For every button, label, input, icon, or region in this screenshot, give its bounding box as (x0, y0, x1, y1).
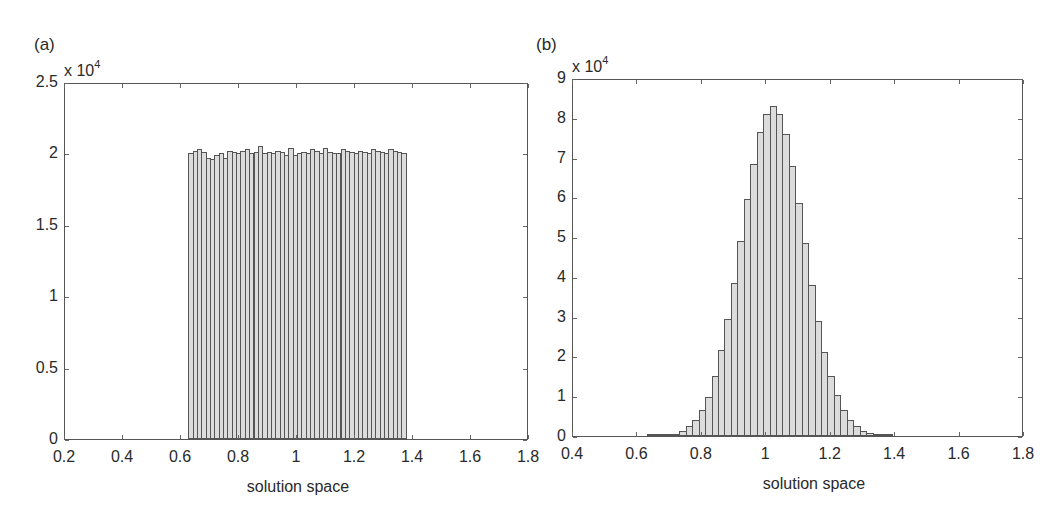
x-tick-label: 1.6 (939, 445, 979, 463)
x-tick-mark (412, 84, 413, 88)
y-tick-label: 2 (18, 144, 58, 162)
x-tick-mark (296, 435, 297, 439)
y-tick-mark (573, 238, 577, 239)
y-tick-label: 0.5 (18, 359, 58, 377)
y-tick-mark (523, 226, 527, 227)
x-tick-mark (180, 84, 181, 88)
x-tick-label: 0.6 (160, 448, 200, 466)
y-tick-label: 1.5 (18, 216, 58, 234)
x-tick-mark (701, 432, 702, 436)
histogram-bar (885, 434, 892, 436)
x-tick-mark (830, 80, 831, 84)
x-tick-mark (636, 432, 637, 436)
y-tick-mark (1018, 357, 1022, 358)
x-tick-mark (765, 80, 766, 84)
histogram-b-axes (572, 79, 1023, 437)
x-tick-mark (64, 435, 65, 439)
x-tick-label: 1 (276, 448, 316, 466)
histogram-bar (401, 153, 406, 439)
histogram-a-axes (64, 83, 528, 440)
y-tick-mark (65, 440, 69, 441)
x-tick-label: 1.6 (450, 448, 490, 466)
x-tick-mark (296, 84, 297, 88)
x-tick-mark (470, 435, 471, 439)
x-tick-mark (354, 435, 355, 439)
y-tick-label: 7 (526, 149, 566, 167)
x-tick-label: 1.2 (334, 448, 374, 466)
exp-base: x 10 (572, 58, 602, 75)
x-tick-mark (572, 432, 573, 436)
y-tick-mark (523, 297, 527, 298)
y-tick-label: 6 (526, 188, 566, 206)
y-tick-mark (1018, 397, 1022, 398)
y-tick-mark (573, 278, 577, 279)
y-tick-mark (573, 357, 577, 358)
y-tick-mark (573, 397, 577, 398)
y-tick-label: 0 (18, 430, 58, 448)
x-tick-mark (1023, 80, 1024, 84)
x-tick-mark (830, 432, 831, 436)
panel-b-y-multiplier: x 104 (572, 56, 608, 76)
y-tick-label: 8 (526, 109, 566, 127)
x-tick-label: 1 (745, 445, 785, 463)
y-tick-mark (1018, 198, 1022, 199)
x-tick-label: 1.8 (1003, 445, 1043, 463)
x-tick-label: 1.8 (508, 448, 548, 466)
x-tick-mark (412, 435, 413, 439)
y-tick-mark (1018, 318, 1022, 319)
x-tick-label: 1.4 (392, 448, 432, 466)
x-tick-label: 0.4 (102, 448, 142, 466)
exp-base: x 10 (64, 62, 94, 79)
x-tick-mark (1023, 432, 1024, 436)
y-tick-label: 2 (526, 347, 566, 365)
x-tick-mark (636, 80, 637, 84)
y-tick-mark (573, 318, 577, 319)
y-tick-label: 5 (526, 228, 566, 246)
y-tick-mark (1018, 278, 1022, 279)
x-tick-label: 1.2 (810, 445, 850, 463)
x-tick-mark (354, 84, 355, 88)
panel-b-xlabel: solution space (714, 475, 914, 493)
y-tick-mark (65, 154, 69, 155)
x-tick-mark (959, 80, 960, 84)
x-tick-mark (959, 432, 960, 436)
y-tick-mark (65, 83, 69, 84)
exp-power: 4 (602, 54, 608, 66)
panel-a-label: (a) (34, 35, 55, 55)
y-tick-mark (573, 79, 577, 80)
y-tick-label: 4 (526, 268, 566, 286)
y-tick-mark (573, 198, 577, 199)
x-tick-mark (238, 84, 239, 88)
x-tick-label: 0.8 (681, 445, 721, 463)
x-tick-mark (64, 84, 65, 88)
x-tick-label: 0.6 (616, 445, 656, 463)
y-tick-mark (1018, 119, 1022, 120)
x-tick-mark (180, 435, 181, 439)
y-tick-label: 2.5 (18, 73, 58, 91)
x-tick-mark (572, 80, 573, 84)
y-tick-mark (1018, 238, 1022, 239)
x-tick-mark (122, 435, 123, 439)
x-tick-mark (765, 432, 766, 436)
y-tick-label: 1 (18, 287, 58, 305)
y-tick-label: 0 (526, 427, 566, 445)
y-tick-mark (523, 369, 527, 370)
x-tick-mark (470, 84, 471, 88)
panel-a-y-multiplier: x 104 (64, 60, 100, 80)
y-tick-mark (65, 369, 69, 370)
y-tick-label: 9 (526, 69, 566, 87)
exp-power: 4 (94, 58, 100, 70)
x-tick-label: 1.4 (874, 445, 914, 463)
y-tick-mark (1018, 79, 1022, 80)
y-tick-label: 1 (526, 387, 566, 405)
y-tick-mark (573, 159, 577, 160)
x-tick-mark (701, 80, 702, 84)
x-tick-label: 0.4 (552, 445, 592, 463)
panel-b-label: (b) (536, 35, 557, 55)
y-tick-label: 3 (526, 308, 566, 326)
x-tick-mark (238, 435, 239, 439)
y-tick-mark (573, 119, 577, 120)
y-tick-mark (1018, 159, 1022, 160)
x-tick-mark (894, 80, 895, 84)
y-tick-mark (65, 297, 69, 298)
